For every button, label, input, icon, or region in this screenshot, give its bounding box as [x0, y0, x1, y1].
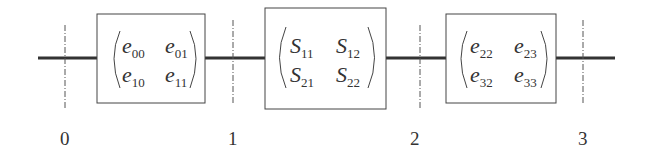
plane-label-3: 3	[578, 128, 588, 149]
network-diagram: e00 e01 e10 e11 S11 S12 S21 S22 e22 e23 …	[0, 0, 650, 158]
plane-label-0: 0	[60, 128, 70, 149]
dut-box: S11 S12 S21 S22	[265, 8, 386, 109]
error-box-b: e22 e23 e32 e33	[446, 14, 556, 103]
plane-label-2: 2	[410, 128, 420, 149]
error-box-a: e00 e01 e10 e11	[97, 14, 205, 103]
plane-label-1: 1	[228, 128, 238, 149]
